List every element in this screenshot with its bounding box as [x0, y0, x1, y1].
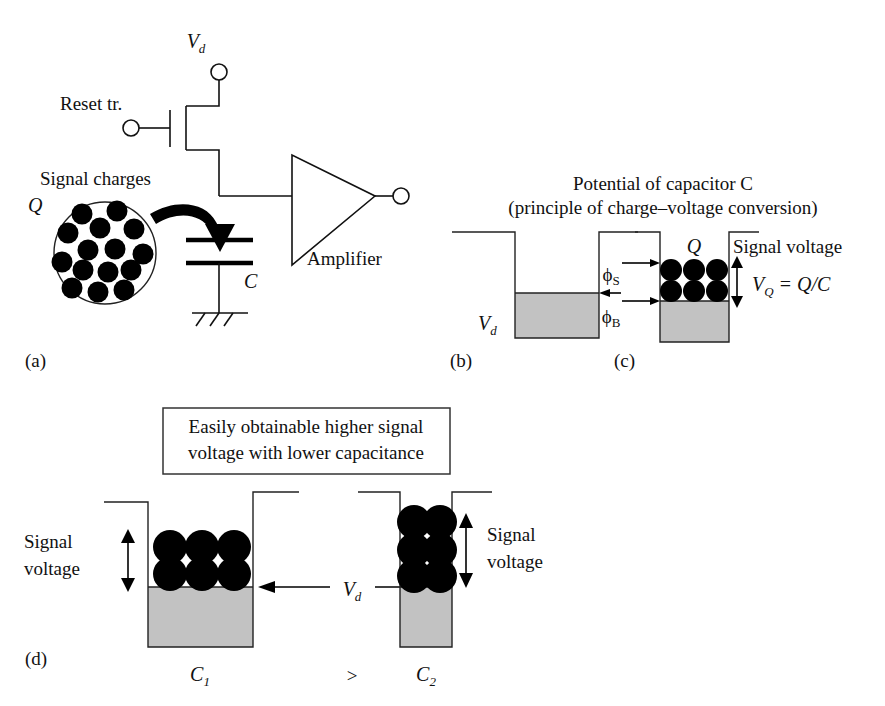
panel-a-circuit: Vd Reset tr. Signal charges Q	[25, 30, 409, 372]
reset-gate-terminal-node	[123, 120, 139, 136]
left-signal-voltage-line1: Signal	[24, 531, 73, 552]
transistor-source-wire	[186, 150, 219, 196]
left-signal-voltage-line2: voltage	[24, 558, 80, 579]
right-well-charge-dots	[397, 505, 457, 593]
vd-supply-label: Vd	[187, 30, 206, 56]
panel-b-fill	[515, 293, 599, 338]
potential-title-line1: Potential of capacitor C	[573, 173, 753, 194]
panel-label-d: (d)	[25, 648, 47, 670]
panel-c-fill	[660, 301, 729, 342]
phi-s-label: ϕS	[602, 264, 619, 288]
capacitor-c-label: C	[244, 270, 258, 292]
left-well-capacitance-label: C1	[190, 663, 210, 689]
capacitance-relation-symbol: >	[347, 665, 358, 686]
potential-title-line2: (principle of charge–voltage conversion)	[508, 197, 817, 219]
figure-root: Vd Reset tr. Signal charges Q	[0, 0, 885, 706]
panel-c-well: Q Signal voltage ϕS ϕB	[602, 232, 843, 372]
panel-label-a: (a)	[25, 350, 46, 372]
vd-terminal-node	[211, 64, 227, 80]
amplifier-label: Amplifier	[307, 248, 383, 269]
charge-q-label: Q	[28, 194, 43, 216]
panel-b-vd-label: Vd	[478, 312, 497, 338]
callout-line-1: Easily obtainable higher signal	[189, 416, 424, 437]
panel-label-c: (c)	[614, 350, 635, 372]
left-well-charge-dots	[153, 530, 251, 591]
right-well-capacitance-label: C2	[416, 663, 436, 689]
signal-charge-dots	[52, 201, 154, 303]
callout-line-2: voltage with lower capacitance	[188, 442, 424, 463]
left-well-fill	[148, 587, 253, 647]
panel-c-signal-voltage-label: Signal voltage	[733, 236, 842, 257]
right-signal-voltage-arrow	[459, 513, 473, 588]
phi-s-arrow	[622, 259, 660, 267]
panel-c-charge-dots	[660, 259, 728, 302]
left-signal-voltage-arrow	[121, 529, 135, 592]
right-well-c2: Signal voltage C2	[358, 492, 543, 689]
panel-d-comparison: Easily obtainable higher signal voltage …	[24, 408, 543, 689]
panel-c-vq-equation: VQ = Q/C	[752, 273, 831, 299]
vd-comparison-label: Vd	[343, 578, 362, 604]
panel-b-level-arrow	[599, 289, 621, 297]
phi-b-arrow	[622, 297, 660, 305]
panel-c-vq-arrow	[731, 256, 743, 308]
figure-svg: Vd Reset tr. Signal charges Q	[0, 0, 885, 706]
left-well-c1: Signal voltage C1	[24, 492, 299, 689]
vd-drain-wire	[186, 80, 219, 106]
phi-b-label: ϕB	[602, 306, 621, 330]
reset-transistor-label: Reset tr.	[60, 93, 122, 114]
potential-heading: Potential of capacitor C (principle of c…	[508, 173, 817, 219]
ground-symbol	[192, 313, 248, 326]
panel-b-well: Vd (b)	[450, 232, 638, 372]
amplifier-output-terminal-node	[393, 188, 409, 204]
panel-label-b: (b)	[450, 350, 472, 372]
signal-charges-label: Signal charges	[40, 168, 151, 189]
right-signal-voltage-line1: Signal	[487, 524, 536, 545]
panel-c-q-label: Q	[687, 235, 702, 257]
right-well-fill	[400, 587, 452, 647]
right-signal-voltage-line2: voltage	[487, 551, 543, 572]
charge-transfer-arrow	[150, 204, 235, 252]
